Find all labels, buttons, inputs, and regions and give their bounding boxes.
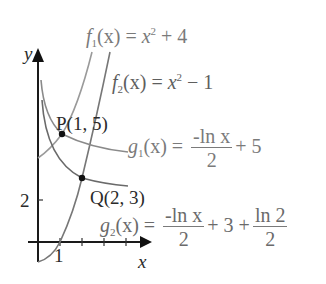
- f2-equation: f2(x) = x2 − 1: [112, 72, 213, 95]
- point-Q: [79, 175, 85, 181]
- x-axis-label: x: [138, 252, 146, 271]
- g1-fraction: -ln x2: [191, 126, 232, 170]
- y-axis-label: y: [24, 44, 32, 63]
- g1-equation: g1(x) = -ln x2+ 5: [128, 126, 262, 170]
- point-P-label: P(1, 5): [56, 114, 108, 133]
- g2-fraction-1: -ln x2: [163, 205, 204, 249]
- x-tick-label-1: 1: [54, 246, 64, 265]
- g2-equation: g2(x) = -ln x2+ 3 +ln 22: [100, 205, 290, 249]
- g2-fraction-2: ln 22: [253, 205, 288, 249]
- y-axis-arrow-icon: [32, 48, 44, 62]
- y-tick-label-2: 2: [20, 191, 30, 210]
- f1-equation: f1(x) = x2 + 4: [86, 26, 187, 49]
